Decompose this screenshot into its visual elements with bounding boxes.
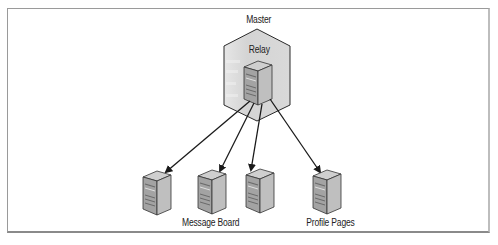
- relay-label: Relay: [249, 44, 270, 55]
- server-3-icon: [246, 169, 274, 213]
- server-2-icon: [198, 170, 226, 214]
- edge-relay-server-4: [270, 99, 320, 172]
- profile-pages-label: Profile Pages: [306, 217, 354, 228]
- master-label: Master: [246, 14, 271, 25]
- edge-relay-server-2: [220, 103, 254, 171]
- diagram-canvas: [0, 0, 498, 245]
- server-1-icon: [143, 171, 171, 215]
- server-4-icon: [313, 170, 341, 214]
- message-board-label: Message Board: [182, 217, 239, 228]
- relay-server-icon: [244, 61, 272, 105]
